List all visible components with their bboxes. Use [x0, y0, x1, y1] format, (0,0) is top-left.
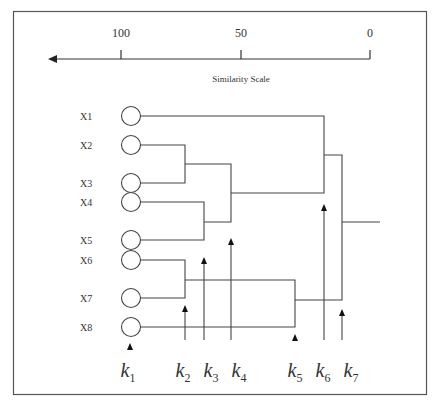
leaf-label-x2: X2	[80, 140, 92, 151]
axis-title: Similarity Scale	[212, 74, 270, 84]
leaf-label-x5: X5	[80, 235, 92, 246]
leaf-label-x3: X3	[80, 178, 92, 189]
dendrogram-figure: 100 50 0 Similarity Scale X1 X2 X3 X4 X5…	[0, 0, 434, 407]
arrow-k6-icon	[321, 204, 327, 211]
cut-label-k6: k6	[316, 359, 331, 385]
arrow-k5-icon	[292, 334, 298, 341]
cut-label-k3: k3	[204, 359, 219, 385]
leaf-label-x4: X4	[80, 197, 92, 208]
tick-label-50: 50	[235, 26, 247, 40]
cut-label-k5: k5	[288, 359, 303, 385]
leaf-node-x6	[122, 251, 141, 270]
leaf-node-x1	[122, 107, 141, 126]
leaf-label-x8: X8	[80, 322, 92, 333]
arrow-k7-icon	[339, 309, 345, 316]
leaf-label-x7: X7	[80, 293, 92, 304]
arrow-k1-icon	[127, 343, 133, 350]
figure-frame	[14, 12, 427, 395]
arrow-k4-icon	[228, 238, 234, 245]
cut-label-k4: k4	[232, 359, 247, 385]
leaf-node-x2	[122, 136, 141, 155]
leaf-label-x1: X1	[80, 111, 92, 122]
leaf-node-x7	[122, 289, 141, 308]
cut-label-k2: k2	[176, 359, 191, 385]
cut-label-k1: k1	[121, 359, 136, 385]
cut-label-k7: k7	[344, 359, 359, 385]
similarity-axis	[52, 50, 370, 59]
leaf-node-x4	[122, 193, 141, 212]
tick-label-100: 100	[112, 26, 130, 40]
leaf-label-x6: X6	[80, 255, 92, 266]
leaf-node-x3	[122, 174, 141, 193]
tick-label-0: 0	[367, 26, 373, 40]
arrow-k3-icon	[201, 257, 207, 264]
leaf-node-x5	[122, 231, 141, 250]
dendrogram-branches	[141, 116, 381, 327]
arrow-k2-icon	[182, 305, 188, 312]
leaf-node-x8	[122, 318, 141, 337]
axis-arrow-icon	[48, 55, 57, 63]
